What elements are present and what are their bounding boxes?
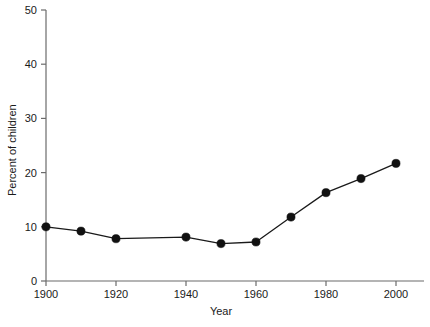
- y-axis-title: Percent of children: [6, 104, 18, 196]
- y-axis-ticks: [41, 10, 46, 281]
- data-series: [42, 159, 400, 247]
- y-tick-label: 50: [25, 4, 37, 16]
- x-axis-ticks: [46, 281, 396, 286]
- y-tick-label: 10: [25, 221, 37, 233]
- data-point: [287, 213, 295, 221]
- y-tick-label: 40: [25, 58, 37, 70]
- y-tick-label: 0: [31, 275, 37, 287]
- y-axis-tick-labels: 01020304050: [25, 4, 37, 287]
- y-tick-label: 20: [25, 167, 37, 179]
- series-line: [46, 163, 396, 243]
- x-tick-label: 1980: [314, 288, 338, 300]
- data-point: [112, 235, 120, 243]
- data-point: [357, 174, 365, 182]
- x-axis-title: Year: [210, 305, 233, 317]
- data-point: [42, 223, 50, 231]
- data-point: [392, 159, 400, 167]
- chart-figure: 01020304050 190019201940196019802000 Per…: [0, 0, 430, 327]
- x-axis-tick-labels: 190019201940196019802000: [34, 288, 408, 300]
- data-point: [77, 227, 85, 235]
- x-tick-label: 1920: [104, 288, 128, 300]
- data-point: [252, 238, 260, 246]
- line-chart: 01020304050 190019201940196019802000 Per…: [0, 0, 430, 327]
- data-point: [182, 233, 190, 241]
- data-point: [217, 240, 225, 248]
- x-tick-label: 1960: [244, 288, 268, 300]
- x-tick-label: 2000: [384, 288, 408, 300]
- y-tick-label: 30: [25, 112, 37, 124]
- x-tick-label: 1940: [174, 288, 198, 300]
- x-tick-label: 1900: [34, 288, 58, 300]
- data-point: [322, 189, 330, 197]
